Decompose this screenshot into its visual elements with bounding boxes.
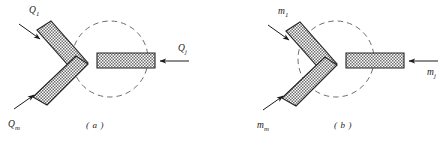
label-inlet-upper: m1	[278, 6, 288, 18]
arrow-inlet-lower	[14, 95, 34, 109]
figure-root: Q1 Qm Qj ( a ) m1 mm mj ( b )	[0, 0, 447, 146]
member-horizontal-bar	[346, 53, 404, 68]
label-inlet-upper: Q1	[29, 5, 39, 17]
label-inlet-lower: Qm	[8, 119, 20, 131]
arrow-inlet-upper	[19, 24, 40, 39]
label-inlet-right: Qj	[178, 43, 187, 55]
panel-caption-b: ( b )	[334, 120, 352, 130]
arrow-inlet-lower	[263, 96, 283, 110]
panel-caption-a: ( a )	[86, 120, 104, 130]
member-lower-bar	[33, 56, 88, 105]
diagram-panel-a: Q1 Qm Qj ( a )	[0, 0, 224, 146]
member-lower-bar	[282, 57, 337, 106]
label-inlet-lower: mm	[257, 120, 269, 132]
diagram-panel-b: m1 mm mj ( b )	[224, 0, 447, 146]
label-inlet-right: mj	[427, 67, 436, 79]
member-horizontal-bar	[97, 53, 155, 68]
arrow-inlet-upper	[268, 25, 289, 40]
